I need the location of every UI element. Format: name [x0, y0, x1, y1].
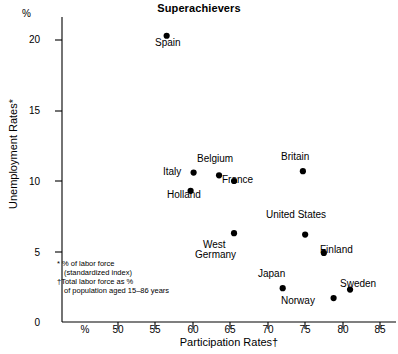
data-label-united-states: United States: [266, 210, 326, 221]
data-point-norway: [330, 295, 336, 301]
data-point-west-germany: [231, 230, 237, 236]
footnote-line-4: of population aged 15–86 years: [57, 286, 169, 295]
data-label-finland: Finland: [320, 245, 353, 256]
data-label-holland: Holland: [167, 190, 201, 201]
scatter-chart: Superachievers Unemployment Rates* Parti…: [0, 0, 398, 354]
data-label-west-germany-line2: Germany: [195, 250, 236, 261]
data-label-japan: Japan: [258, 269, 285, 280]
footnote-line-3: †Total labor force as %: [57, 277, 169, 286]
data-label-italy: Italy: [163, 167, 181, 178]
footnote-block: * % of labor force (standardized index) …: [57, 259, 169, 295]
data-label-belgium: Belgium: [197, 154, 233, 165]
y-axis-ticks: [55, 40, 62, 252]
data-point-japan: [280, 285, 286, 291]
data-label-spain: Spain: [155, 38, 181, 49]
data-point-italy: [191, 169, 197, 175]
plot-area: [0, 0, 398, 354]
footnote-line-1: * % of labor force: [57, 259, 169, 268]
data-label-norway: Norway: [281, 296, 315, 307]
data-point-britain: [300, 168, 306, 174]
x-axis-ticks: [118, 322, 380, 329]
footnote-line-2: (standardized index): [57, 268, 169, 277]
data-label-britain: Britain: [281, 152, 309, 163]
data-label-france: France: [222, 175, 253, 186]
data-point-markers: [164, 33, 354, 301]
data-point-united-states: [302, 231, 308, 237]
data-label-sweden: Sweden: [340, 279, 376, 290]
